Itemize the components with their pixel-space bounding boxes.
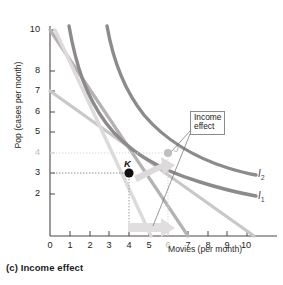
y-axis-title: Pop (cases per month) (13, 57, 23, 153)
y-tick-8: 8 (26, 65, 40, 75)
y-tick-7: 7 (26, 85, 40, 95)
x-tick-4: 4 (123, 240, 135, 250)
y-tick-marks (50, 30, 55, 194)
y-tick-4: 4 (26, 147, 40, 157)
x-tick-0: 0 (44, 240, 56, 250)
y-tick-2: 2 (26, 188, 40, 198)
curve-label-i2: I2 (258, 168, 265, 181)
point-label-j: J (174, 143, 179, 154)
callout-line-2: effect (194, 122, 221, 131)
point-k (124, 168, 133, 177)
figure-caption: (c) Income effect (6, 262, 83, 273)
x-tick-5: 5 (143, 240, 155, 250)
point-label-k: K (124, 158, 131, 169)
y-tick-3: 3 (26, 167, 40, 177)
income-effect-callout: Income effect (190, 111, 225, 135)
y-tick-6: 6 (26, 106, 40, 116)
point-j (164, 149, 172, 157)
curve-label-i1-sub: 1 (261, 196, 265, 203)
y-tick-5: 5 (26, 126, 40, 136)
curve-label-i2-sub: 2 (261, 174, 265, 181)
income-effect-figure: 10 8 7 6 5 4 3 2 0 1 2 3 4 5 6 7 8 9 10 … (0, 0, 283, 285)
axes (50, 26, 277, 236)
x-axis-title: Movies (per month) (168, 244, 242, 254)
income-effect-arrow-upper (134, 157, 175, 182)
y-tick-10: 10 (26, 24, 40, 34)
x-tick-1: 1 (64, 240, 76, 250)
x-tick-2: 2 (84, 240, 96, 250)
curve-label-i1: I1 (258, 190, 265, 203)
x-tick-3: 3 (103, 240, 115, 250)
budget-line-rotated (55, 30, 151, 236)
